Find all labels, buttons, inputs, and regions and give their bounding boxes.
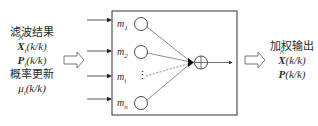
connector-i — [146, 63, 191, 76]
input-double-arrow-icon — [64, 52, 84, 68]
output-double-arrow-icon — [245, 52, 265, 68]
model-node-n — [135, 97, 148, 110]
model-label-2: m2 — [117, 45, 128, 63]
ellipsis: ⋮ — [137, 69, 148, 82]
input-label-filter-result: 滤波结果 — [4, 26, 60, 39]
summing-junction-icon — [195, 56, 208, 69]
connector-1 — [147, 27, 191, 62]
input-label-probability-update: 概率更新 — [4, 68, 60, 81]
output-covariance: P(k/k) — [268, 68, 316, 81]
processing-box — [112, 11, 237, 115]
model-node-2 — [135, 46, 148, 59]
x-argument: (k/k) — [27, 40, 47, 52]
output-state-estimate: X^(k/k) — [268, 54, 316, 67]
mu-argument: (k/k) — [26, 82, 46, 94]
connector-n — [147, 63, 191, 100]
output-label-weighted: 加权输出 — [268, 40, 316, 53]
model-label-1: m1 — [117, 17, 128, 35]
input-model-probability: μi(k/k) — [4, 82, 60, 100]
connector-2 — [147, 53, 191, 62]
junction-arrowhead — [188, 58, 194, 67]
p-argument: (k/k) — [26, 54, 46, 66]
output-x-argument: (k/k) — [286, 54, 306, 66]
output-p-argument: (k/k) — [285, 68, 305, 80]
model-node-1 — [135, 18, 148, 31]
model-label-i: mi — [117, 70, 126, 88]
model-label-n: mn — [117, 96, 128, 114]
